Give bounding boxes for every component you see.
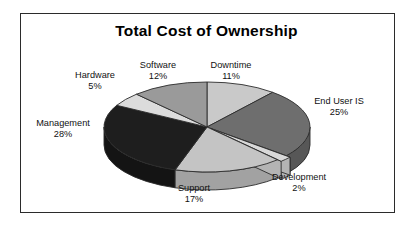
slice-label-hardware-name: Hardware: [60, 70, 130, 81]
slice-label-end-user-is-name: End User IS: [300, 96, 378, 107]
slice-label-hardware-percent: 5%: [60, 81, 130, 92]
slice-label-hardware: Hardware 5%: [60, 70, 130, 92]
slice-label-management-percent: 28%: [22, 129, 104, 140]
slice-label-software-name: Software: [128, 60, 188, 71]
slice-label-software-percent: 12%: [128, 71, 188, 82]
slice-label-management: Management 28%: [22, 118, 104, 140]
slice-label-support-name: Support: [163, 183, 225, 194]
slice-label-development: Development 2%: [256, 172, 342, 194]
slice-label-development-percent: 2%: [256, 183, 342, 194]
page-title: Total Cost of Ownership: [0, 22, 413, 40]
slice-label-end-user-is: End User IS 25%: [300, 96, 378, 118]
slice-label-support: Support 17%: [163, 183, 225, 205]
slice-label-downtime-percent: 11%: [198, 71, 264, 82]
slice-label-downtime: Downtime 11%: [198, 60, 264, 82]
slice-label-support-percent: 17%: [163, 194, 225, 205]
slice-label-software: Software 12%: [128, 60, 188, 82]
slice-label-management-name: Management: [22, 118, 104, 129]
slice-label-development-name: Development: [256, 172, 342, 183]
slice-label-end-user-is-percent: 25%: [300, 107, 378, 118]
slice-label-downtime-name: Downtime: [198, 60, 264, 71]
chart-canvas: Total Cost of Ownership Management 28% H…: [0, 0, 413, 227]
